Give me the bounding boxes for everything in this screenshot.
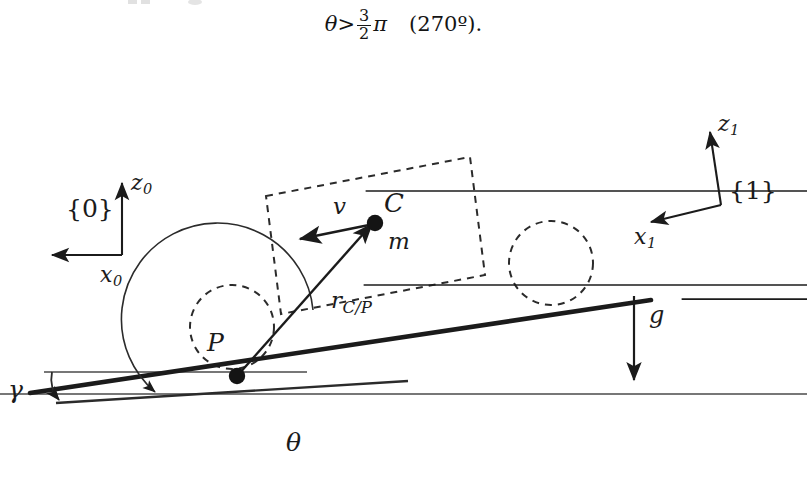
frame-1-label: {1} bbox=[729, 178, 777, 203]
axis-z1-label: z1 bbox=[718, 113, 739, 138]
axis-x1-label: x1 bbox=[634, 226, 656, 251]
body-outline bbox=[266, 157, 485, 314]
figure-canvas: θ>32π(270º). bbox=[0, 0, 807, 478]
mass-label: m bbox=[388, 230, 410, 253]
gamma-direction-line bbox=[56, 381, 408, 403]
axis-z0-label: z0 bbox=[131, 172, 152, 197]
axis-x1-subscript: 1 bbox=[647, 235, 656, 251]
theta-angle-label: θ bbox=[286, 430, 301, 455]
gamma-angle-label: γ bbox=[8, 377, 23, 402]
cropped-text-remnant bbox=[128, 0, 202, 5]
velocity-letter: v bbox=[333, 193, 346, 219]
axis-z1-arrow bbox=[710, 132, 721, 205]
gamma-arc bbox=[51, 372, 59, 400]
axis-x1-letter: x bbox=[634, 224, 646, 249]
velocity-vector-label: v bbox=[333, 195, 346, 218]
gravity-letter: g bbox=[649, 301, 664, 329]
axis-x0-subscript: 0 bbox=[113, 273, 122, 289]
position-vector-label: rC/P bbox=[331, 289, 372, 316]
gravity-vector-label: g bbox=[649, 303, 664, 327]
position-vector-subscript: C/P bbox=[343, 298, 372, 317]
axis-x0-label: x0 bbox=[100, 264, 122, 289]
position-vector-letter: r bbox=[331, 287, 342, 313]
contact-point-label: P bbox=[207, 330, 224, 355]
axis-x1-arrow bbox=[651, 205, 721, 222]
axis-z0-letter: z bbox=[131, 170, 143, 195]
axis-z1-letter: z bbox=[718, 111, 730, 136]
center-of-mass-point bbox=[367, 215, 383, 231]
center-of-mass-label: C bbox=[384, 190, 404, 216]
frame-0-label: {0} bbox=[66, 196, 114, 221]
axis-x0-letter: x bbox=[100, 262, 112, 287]
frame-1-axes bbox=[651, 132, 721, 222]
axis-z0-subscript: 0 bbox=[143, 181, 152, 197]
velocity-vector-arrow bbox=[300, 224, 374, 239]
axis-z1-subscript: 1 bbox=[730, 122, 739, 138]
front-wheel bbox=[509, 221, 593, 305]
contact-point-dot bbox=[229, 368, 245, 384]
